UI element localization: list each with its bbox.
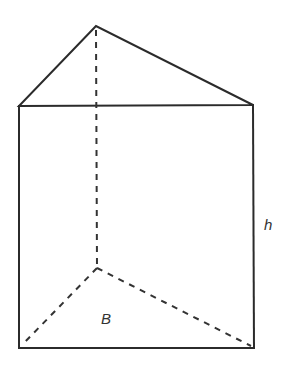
hidden-back-edge — [96, 30, 97, 268]
triangular-prism-diagram: B h — [0, 0, 292, 367]
right-edge — [253, 105, 254, 348]
hidden-bottom-left-edge — [22, 268, 97, 345]
base-label: B — [101, 310, 111, 327]
height-label: h — [264, 216, 272, 233]
top-face — [19, 26, 253, 106]
hidden-bottom-right-edge — [97, 268, 251, 346]
